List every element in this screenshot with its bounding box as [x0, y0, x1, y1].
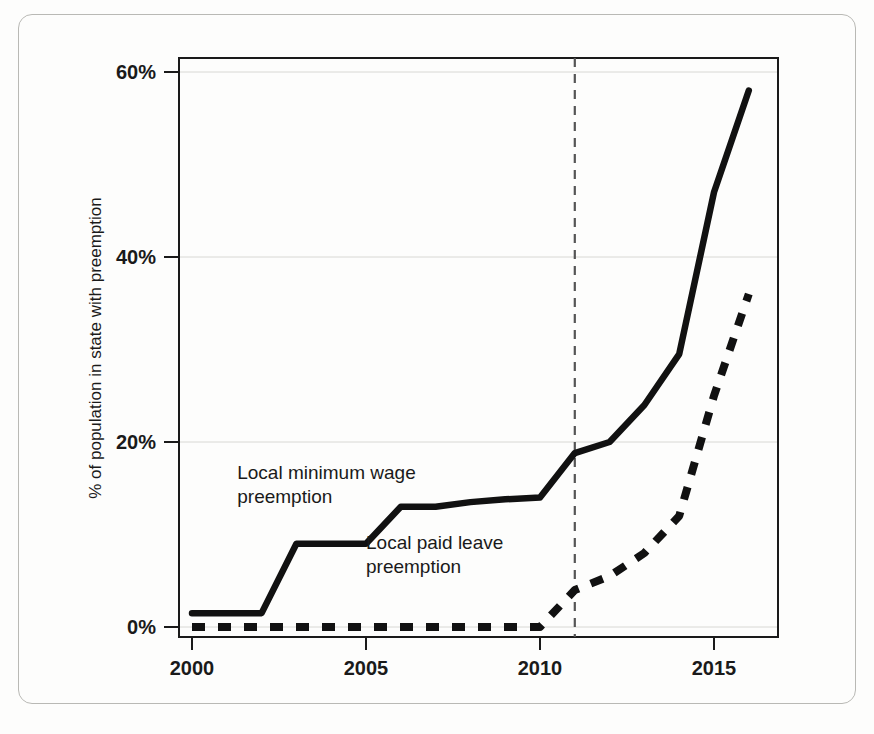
y-tick-label: 0% — [127, 616, 156, 638]
x-tick-label: 2015 — [692, 657, 737, 679]
series-annotations: Local minimum wagepreemptionLocal paid l… — [237, 462, 503, 577]
chart-page: 2000200520102015 0%20%40%60% Local minim… — [0, 0, 874, 734]
y-tick-label: 20% — [116, 431, 156, 453]
x-tick-label: 2005 — [344, 657, 389, 679]
y-tick-label: 40% — [116, 246, 156, 268]
y-axis-title: % of population in state with preemption — [86, 197, 105, 498]
series-annotation-1-line2: preemption — [237, 486, 332, 507]
x-tick-label: 2010 — [518, 657, 563, 679]
series-line-2 — [192, 294, 749, 627]
chart-figure: 2000200520102015 0%20%40%60% Local minim… — [0, 0, 874, 734]
y-tick-label: 60% — [116, 61, 156, 83]
x-axis-ticks: 2000200520102015 — [170, 637, 737, 679]
x-tick-label: 2000 — [170, 657, 215, 679]
y-axis-ticks: 0%20%40%60% — [116, 61, 179, 638]
series-annotation-2-line2: preemption — [366, 556, 461, 577]
series-annotation-1-line1: Local minimum wage — [237, 462, 415, 483]
series-annotation-2-line1: Local paid leave — [366, 532, 503, 553]
preemption-line-chart: 2000200520102015 0%20%40%60% Local minim… — [0, 0, 874, 734]
